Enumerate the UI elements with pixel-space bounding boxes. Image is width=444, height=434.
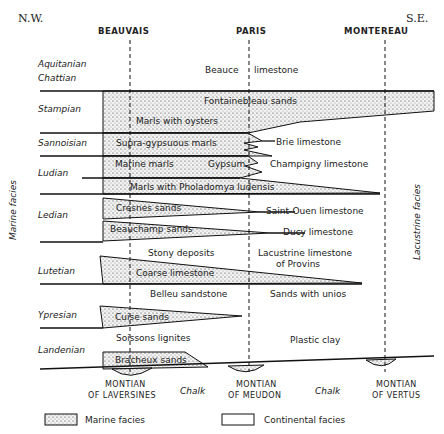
locality-beauvais: BEAUVAIS [98, 26, 149, 36]
marine-marls-label: Marine marls [115, 159, 174, 169]
sands-with-unios-label: Sands with unios [270, 289, 347, 299]
locality-montereau: MONTEREAU [344, 26, 408, 36]
chalk-label-1: Chalk [180, 386, 206, 396]
montian-vertus-label-1: MONTIAN [376, 380, 417, 389]
marls-with-oysters-label: Marls with oysters [136, 116, 218, 126]
chalk-label-2: Chalk [315, 386, 341, 396]
legend-continental-swatch [222, 414, 254, 425]
soissons-lignites-label: Soissons lignites [116, 333, 191, 343]
stage-ypresian: Ypresian [38, 310, 77, 320]
legend-marine-swatch [45, 414, 77, 425]
stage-ludian: Ludian [38, 168, 68, 178]
brie-limestone-label: Brie limestone [276, 137, 342, 147]
legend-continental-label: Continental facies [264, 415, 346, 425]
stony-deposits-label: Stony deposits [148, 248, 215, 258]
direction-se: S.E. [406, 12, 428, 25]
montian-meudon-label-1: MONTIAN [236, 380, 277, 389]
stage-sannoisian: Sannoisian [38, 138, 87, 148]
montian-laversines-label-1: MONTIAN [105, 380, 146, 389]
montian-meudon-lens [228, 365, 264, 372]
fontainebleau-sands-label: Fontainebleau sands [204, 96, 297, 106]
stratigraphic-cross-section: N.W. S.E. BEAUVAIS PARIS MONTEREAU [0, 0, 444, 434]
lacustrine-limestone-label: Lacustrine limestone [258, 248, 352, 258]
plastic-clay-label: Plastic clay [290, 335, 341, 345]
stage-landenian: Landenian [38, 345, 85, 355]
stage-aquitanian: Aquitanian [37, 59, 87, 69]
cresnes-sands-label: Cresnes sands [116, 203, 181, 213]
gypsum-label: Gypsum [208, 159, 245, 169]
montian-laversines-lens [112, 368, 152, 375]
direction-nw: N.W. [18, 12, 43, 25]
supra-gypsuous-marls-label: Supra-gypsuous marls [116, 138, 217, 148]
stage-ledian: Ledian [38, 210, 68, 220]
stage-boundaries [40, 91, 434, 369]
of-provins-label: of Provins [276, 259, 320, 269]
marine-facies-side-label: Marine facies [8, 180, 18, 240]
lacustrine-facies-side-label: Lacustrine facies [412, 184, 422, 260]
cuise-sands-label: Cuise sands [115, 312, 169, 322]
stage-lutetian: Lutetian [38, 266, 75, 276]
stage-chattian: Chattian [38, 73, 77, 83]
beauchamp-sands-label: Beauchamp sands [110, 224, 193, 234]
legend-marine-label: Marine facies [85, 415, 145, 425]
locality-paris: PARIS [236, 26, 266, 36]
bracheux-sands-label: Bracheux sands [115, 355, 187, 365]
montian-laversines-label-2: OF LAVERSINES [88, 391, 156, 400]
stage-stampian: Stampian [38, 104, 81, 114]
beauce-limestone-label: limestone [254, 65, 299, 75]
montian-vertus-lens [366, 359, 396, 366]
montian-vertus-label-2: OF VERTUS [372, 391, 420, 400]
saint-ouen-limestone-label: Saint-Ouen limestone [266, 206, 364, 216]
ducy-limestone-label: Ducy limestone [283, 227, 354, 237]
montian-meudon-label-2: OF MEUDON [228, 391, 281, 400]
champigny-limestone-label: Champigny limestone [270, 159, 369, 169]
beauce-label: Beauce [205, 65, 239, 75]
belleu-sandstone-label: Belleu sandstone [150, 289, 228, 299]
pholadomya-marls-label: Marls with Pholadomya ludensis [130, 182, 275, 192]
coarse-limestone-label: Coarse limestone [136, 268, 215, 278]
